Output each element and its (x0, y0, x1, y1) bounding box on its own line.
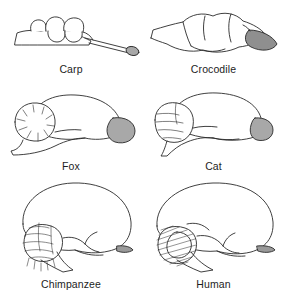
specimen-cell-fox: Fox (0, 88, 142, 178)
crocodile-brain-icon (143, 0, 285, 62)
specimen-cell-carp: Carp (0, 0, 142, 88)
specimen-label-human: Human (196, 278, 230, 290)
cropped-caption-strip (0, 298, 285, 306)
specimen-label-cat: Cat (205, 160, 222, 172)
carp-brain-icon (1, 0, 141, 62)
specimen-label-carp: Carp (59, 63, 82, 75)
fox-brain-icon (1, 88, 141, 160)
specimen-label-chimpanzee: Chimpanzee (41, 278, 101, 290)
brain-grid: Carp Crocodile (0, 0, 285, 296)
specimen-cell-crocodile: Crocodile (142, 0, 285, 88)
specimen-cell-cat: Cat (142, 88, 285, 178)
cat-brain-icon (143, 88, 285, 160)
specimen-cell-chimpanzee: Chimpanzee (0, 178, 142, 296)
specimen-cell-human: Human (142, 178, 285, 296)
human-brain-icon (143, 178, 285, 278)
chimpanzee-brain-icon (1, 178, 141, 278)
comparative-brain-figure: Carp Crocodile (0, 0, 285, 306)
specimen-label-crocodile: Crocodile (191, 63, 236, 75)
specimen-label-fox: Fox (62, 160, 80, 172)
